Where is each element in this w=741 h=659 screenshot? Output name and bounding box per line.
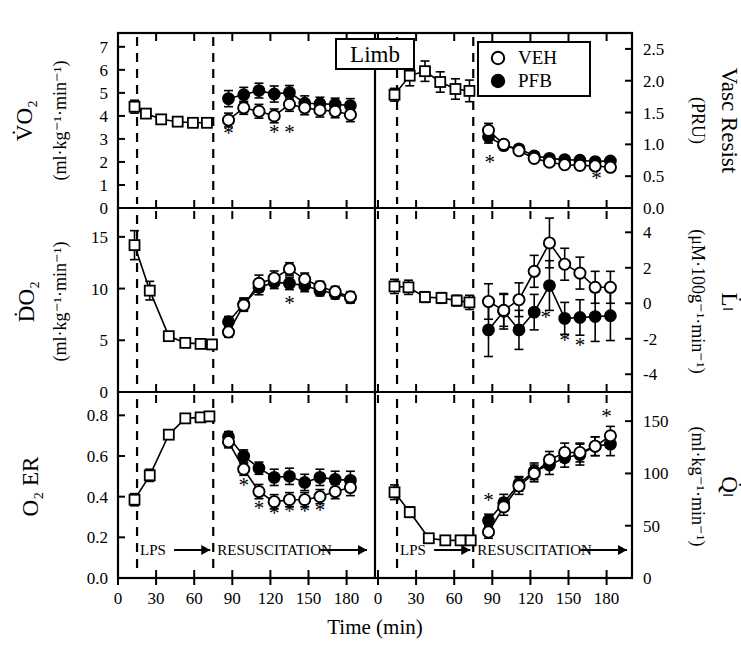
panel-top-right-marker-square [420, 66, 430, 76]
panel-top-right-marker-veh [483, 125, 494, 136]
panel-top-right-yticklabel: 2.5 [643, 40, 664, 59]
panel-middle-right-star: * [559, 328, 570, 352]
xaxis-ticklabel: 180 [334, 589, 360, 608]
panel-top-right-marker-square [435, 77, 445, 87]
panel-middle-right-marker-veh [559, 259, 570, 270]
panel-top-right-marker-veh [574, 160, 585, 171]
panel-middle-left-marker-veh [345, 291, 356, 302]
phase-arrowhead-lps [201, 545, 210, 555]
panel-middle-right-yticklabel: 4 [643, 223, 652, 242]
panel-middle-right-marker-square [452, 296, 462, 306]
panel-top-left-marker-square [130, 102, 140, 112]
phase-label-resuscitation: RESUSCITATION [477, 542, 592, 558]
panel-middle-left-marker-square [164, 331, 174, 341]
ylabel-bottom-left: O₂ ER [18, 456, 43, 516]
yunits-top-right: (PRU) [687, 97, 708, 144]
panel-bottom-left-star: * [238, 473, 249, 497]
phase-arrowhead-lps [461, 545, 470, 555]
panel-top-left-marker-pfb [253, 85, 264, 96]
panel-bottom-left-marker-pfb [238, 450, 249, 461]
panel-top-left-yticklabel: 0 [100, 199, 109, 218]
panel-bottom-left-marker-square [204, 411, 214, 421]
panel-top-right-marker-square [450, 84, 460, 94]
panel-top-right-marker-square [390, 90, 400, 100]
ylabel-middle-left: ḊO₂ [14, 281, 39, 322]
panel-top-left-marker-veh [314, 105, 325, 116]
panel-bottom-right-marker-veh [529, 468, 540, 479]
xaxis-ticklabel: 0 [374, 589, 383, 608]
panel-middle-left-yticklabel: 0 [100, 383, 109, 402]
panel-top-left-marker-pfb [238, 89, 249, 100]
panel-bottom-left-yticklabel: 0.8 [87, 406, 108, 425]
phase-label-lps: LPS [140, 542, 166, 558]
panel-top-left-yticklabel: 1 [100, 176, 109, 195]
legend-marker-veh [492, 52, 504, 64]
panel-bottom-left-marker-veh [330, 486, 341, 497]
panel-bottom-right-yticklabel: 150 [643, 412, 669, 431]
panel-middle-left-marker-square [180, 338, 190, 348]
panel-bottom-right-marker-veh [544, 454, 555, 465]
panel-bottom-right-star: * [601, 404, 612, 428]
panel-middle-right-marker-veh [513, 294, 524, 305]
yunits-bottom-right: (ml·kg⁻¹·min⁻¹) [687, 427, 708, 547]
legend-label-pfb: PFB [518, 70, 552, 91]
panel-top-left-star: * [284, 120, 295, 144]
ylabel-bottom-right: Q̇ₗ [717, 476, 741, 497]
panel-top-left-marker-square [188, 118, 198, 128]
xaxis-ticklabel: 30 [408, 589, 425, 608]
panel-top-left-marker-veh [253, 106, 264, 117]
panel-bottom-right-marker-veh [590, 441, 601, 452]
panel-middle-left-marker-square [207, 339, 217, 349]
panel-top-right-marker-veh [605, 162, 616, 173]
panel-bottom-left-yticklabel: 0.0 [87, 569, 108, 588]
panel-top-left-marker-square [202, 118, 212, 128]
panel-middle-right-marker-veh [544, 237, 555, 248]
panel-middle-right-star: * [575, 333, 586, 357]
phase-arrowhead-resus [618, 545, 627, 555]
panel-top-left-yticklabel: 2 [100, 153, 109, 172]
panel-top-right-yticklabel: 0.5 [643, 167, 664, 186]
panel-top-right-star: * [485, 150, 496, 174]
panel-top-left-yticklabel: 4 [100, 107, 109, 126]
panel-bottom-right-yticklabel: 0 [643, 569, 652, 588]
panel-bottom-right-star: * [483, 488, 494, 512]
panel-middle-right-marker-pfb [513, 324, 524, 335]
panel-middle-left-marker-veh [314, 281, 325, 292]
panel-bottom-left-marker-pfb [330, 474, 341, 485]
panel-middle-left-yticklabel: 10 [91, 280, 108, 299]
panel-middle-right-marker-pfb [605, 310, 616, 321]
panel-top-left-marker-pfb [284, 87, 295, 98]
panel-top-left-star: * [223, 121, 234, 145]
panel-middle-left-yticklabel: 15 [91, 228, 108, 247]
panel-top-left-marker-square [173, 117, 183, 127]
panel-bottom-left-marker-pfb [253, 463, 264, 474]
panel-top-right-yticklabel: 2.0 [643, 72, 664, 91]
xaxis-ticklabel: 90 [224, 589, 241, 608]
panel-bottom-left-star: * [315, 498, 326, 522]
panel-middle-left-marker-veh [284, 263, 295, 274]
yunits-middle-left: (ml·kg⁻¹·min⁻¹) [50, 242, 71, 362]
panel-middle-right-marker-veh [529, 266, 540, 277]
panel-middle-right-marker-square [437, 293, 447, 303]
xaxis-ticklabel: 150 [296, 589, 322, 608]
panel-middle-right-marker-pfb [529, 307, 540, 318]
panel-bottom-left-yticklabel: 0.6 [87, 447, 108, 466]
panel-middle-left-marker-veh [299, 274, 310, 285]
page-title: Limb [350, 42, 400, 67]
panel-bottom-right-marker-square [456, 535, 466, 545]
panel-bottom-right-marker-square [466, 535, 476, 545]
panel-middle-right-marker-veh [574, 268, 585, 279]
figure-canvas: 01234567***0.00.51.01.52.02.5**051015*-4… [0, 0, 741, 659]
panel-middle-right-marker-veh [498, 305, 509, 316]
ylabel-top-right: Vasc Resist [717, 68, 741, 174]
panel-middle-right-yticklabel: -4 [643, 365, 658, 384]
panel-top-left-marker-veh [330, 106, 341, 117]
panel-bottom-right-marker-veh [513, 480, 524, 491]
yunits-top-left: (ml·kg⁻¹·min⁻¹) [50, 61, 71, 181]
xaxis-title: Time (min) [327, 615, 422, 639]
panel-bottom-left-marker-square [180, 413, 190, 423]
panel-middle-left-marker-square [196, 339, 206, 349]
panel-middle-right-marker-veh [590, 282, 601, 293]
panel-bottom-right-yticklabel: 100 [643, 464, 669, 483]
panel-top-left-marker-veh [238, 102, 249, 113]
